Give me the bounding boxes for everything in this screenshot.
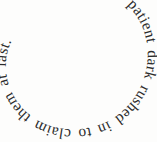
spiral-sentence: the patient dark rushed in to claim them… — [0, 0, 157, 142]
spiral-text-artwork: the patient dark rushed in to claim them… — [0, 0, 157, 142]
spiral-canvas: the patient dark rushed in to claim them… — [0, 0, 157, 142]
spiral-sentence-path: the patient dark rushed in to claim them… — [0, 0, 157, 142]
